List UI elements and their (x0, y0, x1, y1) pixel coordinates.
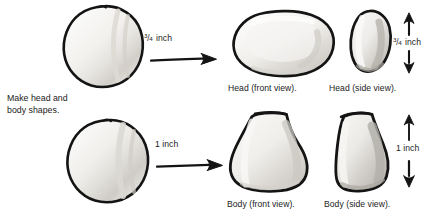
arrow-label-head: 3/4inch (144, 33, 172, 43)
dimension-unit-head: inch (405, 37, 421, 47)
fraction-denominator: 4 (398, 38, 401, 45)
arrow-label-unit-head: inch (156, 33, 172, 43)
body-side-shape (328, 110, 396, 194)
instruction-text: Make head and body shapes. (7, 92, 68, 117)
head-side-shape (348, 8, 394, 78)
head-front-shape (231, 8, 339, 78)
clay-ball-body (62, 116, 156, 208)
diagram-canvas: 3/4inch 3/4inch Head (front view). Head … (0, 0, 440, 223)
arrow-right-body (156, 158, 226, 174)
arrow-right-head (150, 52, 220, 68)
dimension-label-head: 3/4inch (393, 37, 421, 47)
caption-body-side: Body (side view). (324, 199, 390, 211)
caption-head-front: Head (front view). (228, 83, 297, 95)
fraction-three-quarters: 3/4 (144, 33, 153, 43)
fraction-denominator: 4 (149, 34, 152, 41)
arrow-label-body: 1 inch (155, 139, 178, 149)
dimension-label-body: 1 inch (396, 143, 419, 153)
body-front-shape (226, 110, 314, 194)
caption-body-front: Body (front view). (227, 199, 295, 211)
caption-head-side: Head (side view). (329, 83, 396, 95)
fraction-three-quarters-vertical: 3/4 (393, 37, 402, 47)
clay-ball-head (58, 2, 150, 92)
